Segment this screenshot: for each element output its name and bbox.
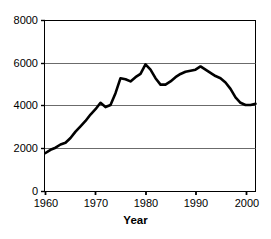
x-tick-label-2000: 2000 (227, 197, 267, 209)
x-axis-title: Year (0, 214, 271, 226)
x-tick-label-1970: 1970 (76, 197, 116, 209)
data-series-line (46, 64, 256, 153)
x-tick-label-1960: 1960 (26, 197, 66, 209)
y-tick-label-4000: 4000 (2, 99, 38, 111)
x-tick-label-1990: 1990 (176, 197, 216, 209)
x-tick-label-1980: 1980 (126, 197, 166, 209)
line-chart-figure: 8000 6000 4000 2000 0 1960 1970 1980 199… (0, 0, 271, 239)
y-tick-label-0: 0 (2, 185, 38, 197)
y-tick-label-6000: 6000 (2, 57, 38, 69)
y-tick-label-2000: 2000 (2, 142, 38, 154)
y-gridlines (45, 64, 256, 149)
y-tick-label-8000: 8000 (2, 14, 38, 26)
